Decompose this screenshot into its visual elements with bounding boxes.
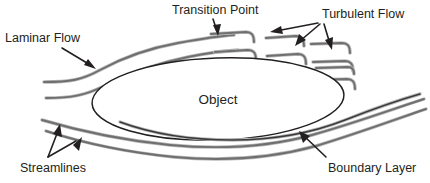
diagram-canvas: Object Laminar Flow Transition Point (0, 0, 430, 183)
flow-diagram: Object Laminar Flow Transition Point (0, 0, 430, 183)
boundary-layer-arrow-line (304, 136, 326, 157)
streamlines-arrow-line-2 (48, 141, 76, 157)
streamlines-label: Streamlines (20, 161, 86, 175)
laminar-flow-label: Laminar Flow (5, 31, 81, 45)
annotation-laminar-flow: Laminar Flow (5, 31, 96, 69)
laminar-flow-arrow-head (84, 59, 96, 69)
annotation-boundary-layer: Boundary Layer (299, 131, 416, 175)
turbulent-flow-arrow-line-1 (276, 23, 318, 31)
boundary-layer-label: Boundary Layer (328, 161, 416, 175)
turbulent-flow-label: Turbulent Flow (322, 7, 405, 21)
turbulent-flow-arrow-head-1 (270, 26, 283, 34)
object-label: Object (198, 92, 237, 107)
transition-point-label: Transition Point (172, 3, 259, 17)
